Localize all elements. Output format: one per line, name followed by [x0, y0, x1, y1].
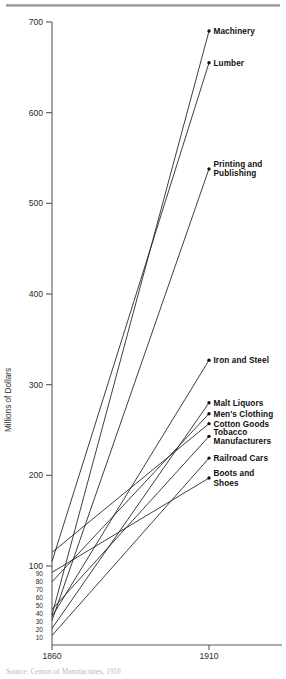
series-line	[52, 31, 209, 615]
y-tick-label-minor: 80	[36, 578, 44, 585]
y-tick-label-minor: 70	[36, 586, 44, 593]
series-line	[52, 169, 209, 621]
series-endpoint-marker	[207, 29, 210, 32]
series-endpoint-marker	[207, 167, 210, 170]
series-label: Machinery	[214, 27, 256, 36]
series-markers-group	[207, 29, 210, 479]
y-tick-label: 400	[29, 289, 44, 299]
y-tick-label-minor: 20	[36, 626, 44, 633]
y-tick-label-minor: 10	[36, 634, 44, 641]
series-label: Tobacco	[214, 428, 248, 437]
y-tick-label-minor: 30	[36, 618, 44, 625]
series-endpoint-marker	[207, 422, 210, 425]
y-axis-ticks: 100200300400500600700102030405060708090	[29, 17, 52, 640]
series-line	[52, 478, 209, 572]
series-line	[52, 458, 209, 635]
series-line	[52, 414, 209, 582]
series-label: Malt Liquors	[214, 399, 264, 408]
source-note: Source: Census of Manufactures, 1910	[6, 667, 282, 676]
y-tick-label: 500	[29, 198, 44, 208]
series-lines-group	[52, 31, 209, 635]
series-endpoint-marker	[207, 476, 210, 479]
series-endpoint-marker	[207, 401, 210, 404]
series-label: Manufacturers	[214, 437, 272, 446]
series-label: Shoes	[214, 479, 239, 488]
x-axis-ticks: 18601910	[42, 645, 218, 661]
series-label: Publishing	[214, 169, 257, 178]
series-endpoint-marker	[207, 358, 210, 361]
series-label: Lumber	[214, 59, 245, 68]
series-label: Boots and	[214, 469, 255, 478]
series-label: Iron and Steel	[214, 356, 270, 365]
series-endpoint-marker	[207, 456, 210, 459]
chart-figure: 100200300400500600700102030405060708090 …	[0, 0, 286, 679]
series-label: Railroad Cars	[214, 454, 269, 463]
x-tick-label: 1910	[199, 651, 218, 661]
series-label: Men's Clothing	[214, 410, 274, 419]
series-endpoint-marker	[207, 61, 210, 64]
y-tick-label-minor: 50	[36, 602, 44, 609]
y-tick-label: 700	[29, 17, 44, 27]
y-tick-label: 600	[29, 108, 44, 118]
y-tick-label-minor: 40	[36, 610, 44, 617]
x-tick-label: 1860	[42, 651, 61, 661]
series-line	[52, 403, 209, 629]
series-endpoint-marker	[207, 435, 210, 438]
y-tick-label: 300	[29, 380, 44, 390]
series-labels-group: MachineryLumberPrinting andPublishingIro…	[214, 27, 274, 488]
line-chart-svg: 100200300400500600700102030405060708090 …	[0, 0, 286, 679]
series-label: Printing and	[214, 160, 263, 169]
series-line	[52, 63, 209, 562]
series-line	[52, 436, 209, 609]
y-axis-title: Millions of Dollars	[4, 368, 13, 432]
series-endpoint-marker	[207, 412, 210, 415]
y-tick-label: 200	[29, 470, 44, 480]
y-tick-label-minor: 60	[36, 594, 44, 601]
y-tick-label-minor: 90	[36, 570, 44, 577]
